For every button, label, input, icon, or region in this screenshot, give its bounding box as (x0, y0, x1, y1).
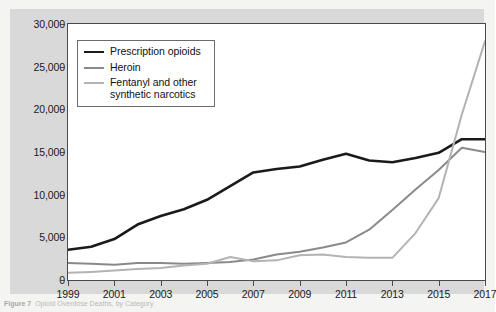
x-axis-tick-label: 2001 (103, 288, 126, 300)
y-axis-tick (60, 67, 65, 68)
figure-caption: Figure 7 Opioid Overdose Deaths, by Cate… (4, 300, 484, 311)
plot-panel: Prescription opioids Heroin Fentanyl and… (67, 23, 486, 281)
legend-item-fentanyl[interactable]: Fentanyl and othersynthetic narcotics (84, 77, 208, 100)
x-axis-tick (114, 281, 115, 286)
x-axis-tick-label: 2007 (242, 288, 265, 300)
x-axis-tick-label: 2009 (288, 288, 311, 300)
legend-label-fentanyl-line1: Fentanyl and other (110, 76, 197, 88)
chart-card: 05,00010,00015,00020,00025,00030,000 Pre… (10, 9, 484, 294)
x-axis-tick (439, 281, 440, 286)
x-axis-tick-label: 2013 (381, 288, 404, 300)
y-axis: 05,00010,00015,00020,00025,00030,000 (10, 23, 65, 281)
x-axis-tick (392, 281, 393, 286)
y-axis-tick-label: 10,000 (13, 190, 65, 200)
x-axis-tick-label: 2011 (335, 288, 357, 300)
y-axis-tick-label: 0 (13, 275, 65, 285)
y-axis-tick (60, 280, 65, 281)
x-axis-tick (68, 281, 69, 286)
x-axis-tick (300, 281, 301, 286)
y-axis-tick-label: 30,000 (13, 19, 65, 29)
y-axis-tick-label: 20,000 (13, 104, 65, 114)
legend-swatch-fentanyl (84, 82, 104, 84)
y-axis-tick (60, 109, 65, 110)
legend-label-fentanyl-line2: synthetic narcotics (110, 88, 195, 100)
chart-legend: Prescription opioids Heroin Fentanyl and… (77, 40, 215, 107)
legend-item-heroin[interactable]: Heroin (84, 62, 208, 74)
x-axis-tick (161, 281, 162, 286)
x-axis-tick-label: 2005 (196, 288, 219, 300)
figure-caption-prefix: Figure 7 (4, 300, 31, 307)
legend-label-heroin: Heroin (110, 62, 141, 74)
x-axis-tick-label: 1999 (57, 288, 80, 300)
y-axis-tick (60, 152, 65, 153)
x-axis-tick-label: 2003 (149, 288, 172, 300)
y-axis-tick (60, 195, 65, 196)
x-axis-tick (207, 281, 208, 286)
legend-label-fentanyl: Fentanyl and othersynthetic narcotics (110, 77, 197, 100)
x-axis-tick (253, 281, 254, 286)
legend-swatch-heroin (84, 67, 104, 69)
legend-label-prescription-opioids: Prescription opioids (110, 46, 201, 58)
x-axis-tick (346, 281, 347, 286)
series-line-0 (68, 139, 485, 250)
legend-swatch-prescription-opioids (84, 51, 104, 53)
y-axis-tick-label: 15,000 (13, 147, 65, 157)
y-axis-tick (60, 237, 65, 238)
x-axis-tick-label: 2015 (427, 288, 450, 300)
figure-caption-text: Opioid Overdose Deaths, by Category (35, 300, 153, 307)
legend-item-prescription-opioids[interactable]: Prescription opioids (84, 46, 208, 58)
y-axis-tick-label: 5,000 (13, 232, 65, 242)
x-axis-tick-label: 2017 (474, 288, 496, 300)
series-line-1 (68, 148, 485, 265)
y-axis-tick (60, 24, 65, 25)
y-axis-tick-label: 25,000 (13, 62, 65, 72)
x-axis-tick (485, 281, 486, 286)
